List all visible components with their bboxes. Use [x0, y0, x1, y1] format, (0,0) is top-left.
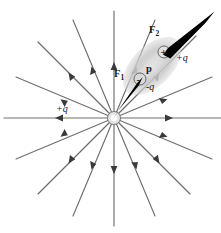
field-arrowhead-270 — [111, 166, 118, 174]
field-arrowhead-337 — [159, 132, 168, 138]
source-charge-glow — [111, 115, 117, 121]
field-line-225 — [38, 118, 114, 194]
field-arrowhead-90 — [111, 62, 118, 70]
field-arrowhead-180 — [55, 115, 63, 122]
dipole-negative-charge-circle — [134, 73, 146, 85]
field-arrowhead-315 — [153, 155, 160, 164]
field-arrowhead-135 — [69, 73, 76, 82]
field-arrowhead-0 — [165, 115, 173, 122]
electric-dipole-field-figure: +q F2 F1 p +q -q + - — [0, 0, 221, 233]
field-arrowhead-225 — [69, 155, 76, 164]
field-line-135 — [38, 42, 114, 118]
source-point-charge — [108, 112, 121, 125]
field-arrowhead-202 — [61, 129, 68, 137]
field-arrowhead-22 — [159, 98, 168, 104]
figure-canvas — [0, 0, 221, 233]
field-line-315 — [114, 118, 190, 194]
force-f2-arrow — [163, 12, 214, 59]
field-arrowhead-157 — [61, 99, 68, 107]
